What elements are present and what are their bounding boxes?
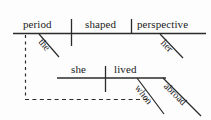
word-lived: lived bbox=[114, 64, 137, 75]
word-shaped: shaped bbox=[85, 19, 116, 30]
word-period: period bbox=[23, 19, 52, 30]
word-she: she bbox=[71, 64, 86, 75]
sentence-diagram-canvas: period shaped perspective she lived the … bbox=[0, 0, 211, 120]
word-perspective: perspective bbox=[137, 19, 188, 30]
